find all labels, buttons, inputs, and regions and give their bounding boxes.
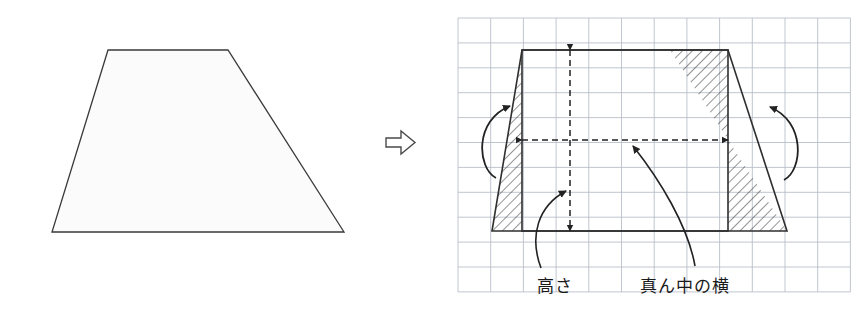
midwidth-label-leader <box>633 146 695 266</box>
height-label: 高さ <box>537 272 573 297</box>
figure-canvas: 高さ 真ん中の横 <box>0 0 868 312</box>
height-label-leader <box>536 191 566 268</box>
geometry-illustration <box>0 0 868 312</box>
left-trapezoid-group <box>52 50 344 232</box>
trapezoid-outline <box>52 50 344 232</box>
right-figure-group <box>458 18 850 292</box>
midwidth-label: 真ん中の横 <box>640 272 730 297</box>
right-arrow-icon <box>386 131 415 154</box>
